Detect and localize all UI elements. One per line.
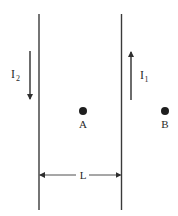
current-i1-label: I 1: [140, 68, 149, 84]
svg-text:2: 2: [16, 74, 20, 83]
svg-text:I: I: [11, 67, 15, 81]
point-b-dot: [161, 107, 169, 115]
separation-label: L: [80, 169, 87, 181]
svg-text:I: I: [140, 68, 144, 82]
point-a-dot: [79, 107, 87, 115]
point-a-label: A: [79, 118, 87, 130]
point-b-label: B: [161, 118, 168, 130]
svg-text:1: 1: [145, 75, 149, 84]
current-i2-label: I 2: [11, 67, 20, 83]
parallel-wires-diagram: I 2 I 1 A B L: [0, 0, 178, 216]
